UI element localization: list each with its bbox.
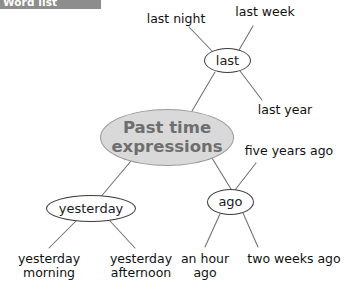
edge-yesterday-to-yesterday-afternoon <box>110 221 135 248</box>
leaf-last-year: last year <box>245 103 325 117</box>
node-last-label: last <box>216 54 239 68</box>
node-yesterday[interactable]: yesterday <box>46 195 136 222</box>
edge-ago-to-an-hour-ago <box>205 214 220 247</box>
edge-last-to-center <box>192 72 215 111</box>
leaf-yesterday-afternoon: yesterday afternoon <box>93 252 189 281</box>
leaf-last-week: last week <box>222 5 308 19</box>
edge-last-to-last-week <box>239 26 253 50</box>
node-ago[interactable]: ago <box>207 189 254 215</box>
edge-yesterday-to-yesterday-morning <box>49 221 76 248</box>
leaf-yesterday-morning: yesterday morning <box>5 252 93 281</box>
word-list-banner: Word list <box>0 0 101 9</box>
edge-center-to-ago <box>212 158 231 189</box>
node-ago-label: ago <box>218 195 242 209</box>
node-yesterday-label: yesterday <box>59 202 124 216</box>
edge-last-to-last-year <box>240 71 262 100</box>
word-list-diagram: Word list last night last week last year… <box>0 0 344 296</box>
node-last[interactable]: last <box>204 48 251 73</box>
edge-last-to-last-night <box>189 27 212 51</box>
node-center-past-time-expressions[interactable]: Past time expressions <box>100 109 234 166</box>
leaf-last-night: last night <box>136 12 216 26</box>
node-center-label: Past time expressions <box>101 119 233 156</box>
banner-title: Word list <box>3 0 57 8</box>
leaf-two-weeks-ago: two weeks ago <box>244 252 344 266</box>
edge-ago-to-two-weeks-ago <box>243 213 258 247</box>
leaf-five-years-ago: five years ago <box>238 144 340 158</box>
edge-ago-to-five-years-ago <box>235 163 256 190</box>
edge-center-to-yesterday <box>99 161 131 199</box>
